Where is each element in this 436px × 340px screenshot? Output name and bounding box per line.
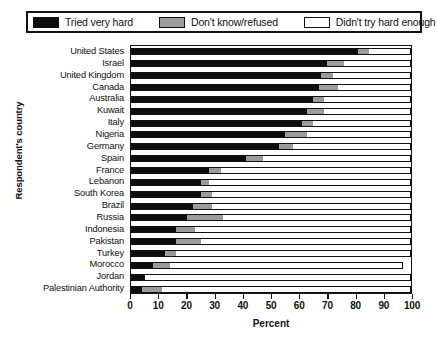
stacked-bar [131,179,411,186]
bar-row [131,60,411,67]
bar-row [131,96,411,103]
segment-dont-know-refused [321,72,332,79]
segment-tried-very-hard [131,60,327,67]
segment-dont-know-refused [142,286,162,293]
segment-didnt-try-hard-enough [176,250,411,257]
segment-dont-know-refused [201,179,209,186]
stacked-bar [131,226,411,233]
bar-row [131,48,411,55]
segment-dont-know-refused [153,262,170,269]
segment-dont-know-refused [279,143,293,150]
y-axis-tick-label: Germany [87,141,124,151]
segment-didnt-try-hard-enough [221,167,411,174]
x-axis-tick [412,294,413,299]
x-axis-tick-label: 100 [404,300,420,311]
x-axis-tick-label: 20 [181,300,192,311]
stacked-bar [131,72,411,79]
y-axis-tick-label: Brazil [102,200,124,210]
chart-legend: Tried very hard Don't know/refused Didn'… [26,11,422,33]
x-axis-tick-label: 40 [237,300,248,311]
segment-didnt-try-hard-enough [263,155,411,162]
bar-row [131,286,411,293]
x-axis-tick [299,294,300,299]
segment-didnt-try-hard-enough [324,108,411,115]
y-axis-tick-label: Palestinian Authority [43,283,124,293]
x-axis-tick [243,294,244,299]
x-axis-tick-label: 90 [378,300,389,311]
segment-dont-know-refused [176,238,201,245]
bar-row [131,262,411,269]
segment-dont-know-refused [285,131,307,138]
stacked-bar [131,96,411,103]
segment-dont-know-refused [313,96,324,103]
segment-didnt-try-hard-enough [162,286,411,293]
bar-row [131,238,411,245]
segment-didnt-try-hard-enough [212,191,411,198]
bar-row [131,214,411,221]
y-axis-tick-label: Israel [102,58,124,68]
stacked-bar [131,155,411,162]
segment-tried-very-hard [131,167,209,174]
y-axis-tick-label: Turkey [97,248,124,258]
segment-didnt-try-hard-enough [212,203,411,210]
segment-dont-know-refused [358,48,369,55]
legend-entry-didnt-try-hard-enough: Didn't try hard enough [304,13,436,31]
segment-didnt-try-hard-enough [293,143,411,150]
bar-row [131,203,411,210]
segment-tried-very-hard [131,191,201,198]
segment-tried-very-hard [131,179,201,186]
segment-tried-very-hard [131,250,165,257]
stacked-bar [131,203,411,210]
x-axis-title: Percent [130,318,412,329]
bar-row [131,274,411,281]
y-axis-tick-labels: United StatesIsraelUnited KingdomCanadaA… [14,45,127,294]
segment-tried-very-hard [131,274,145,281]
stacked-bar [131,167,411,174]
bar-row [131,179,411,186]
x-axis-tick [186,294,187,299]
segment-tried-very-hard [131,286,142,293]
segment-didnt-try-hard-enough [195,226,411,233]
bar-rows [131,46,411,293]
stacked-bar [131,131,411,138]
stacked-bar [131,48,411,55]
y-axis-tick-label: France [96,165,124,175]
segment-tried-very-hard [131,120,302,127]
segment-tried-very-hard [131,155,246,162]
stacked-bar [131,191,411,198]
bar-row [131,191,411,198]
stacked-bar [131,250,411,257]
y-axis-tick-label: Nigeria [96,129,124,139]
stacked-bar [131,286,411,293]
segment-didnt-try-hard-enough [369,48,411,55]
segment-dont-know-refused [246,155,263,162]
segment-dont-know-refused [327,60,344,67]
x-axis-tick-label: 80 [350,300,361,311]
bar-row [131,72,411,79]
bar-row [131,84,411,91]
stacked-bar [131,108,411,115]
legend-swatch-tried-very-hard [33,17,59,28]
bar-row [131,167,411,174]
segment-didnt-try-hard-enough [145,274,411,281]
legend-swatch-didnt-try-hard-enough [304,17,330,28]
segment-tried-very-hard [131,72,321,79]
x-axis-tick-label: 70 [322,300,333,311]
segment-didnt-try-hard-enough [307,131,411,138]
segment-tried-very-hard [131,48,358,55]
y-axis-tick-label: Spain [101,153,124,163]
segment-tried-very-hard [131,96,313,103]
y-axis-tick-label: South Korea [74,188,124,198]
y-axis-tick-label: Jordan [96,271,124,281]
x-axis-tick [158,294,159,299]
segment-tried-very-hard [131,214,187,221]
segment-tried-very-hard [131,203,193,210]
segment-dont-know-refused [201,191,212,198]
segment-didnt-try-hard-enough [223,214,411,221]
bar-row [131,226,411,233]
legend-label-dont-know-refused: Don't know/refused [191,17,278,28]
stacked-bar [131,143,411,150]
x-axis-tick-label: 60 [294,300,305,311]
y-axis-tick-label: Italy [108,117,124,127]
